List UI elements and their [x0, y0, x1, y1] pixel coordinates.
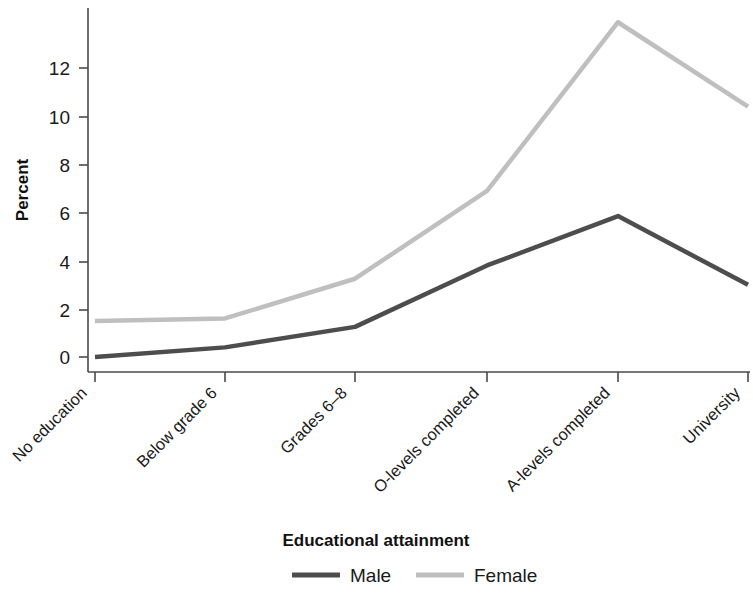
series-line-male	[95, 216, 748, 357]
x-tick-label-no-education: No education	[9, 383, 90, 464]
y-axis-title: Percent	[13, 158, 32, 221]
x-tick-label-grades-6-8: Grades 6–8	[276, 383, 350, 457]
x-tick-marks	[95, 372, 748, 382]
series-line-female	[95, 22, 748, 321]
y-tick-label-2: 2	[59, 300, 70, 321]
y-tick-label-4: 4	[59, 252, 70, 273]
x-tick-label-university: University	[679, 383, 743, 447]
legend-label-male: Male	[350, 565, 391, 586]
chart-figure: 12 10 8 6 4 2 0 Percent No education Bel…	[0, 0, 753, 593]
x-tick-label-a-levels-completed: A-levels completed	[502, 383, 613, 494]
line-chart-canvas: 12 10 8 6 4 2 0 Percent No education Bel…	[0, 0, 753, 593]
y-tick-label-6: 6	[59, 203, 70, 224]
y-tick-label-10: 10	[49, 107, 70, 128]
chart-legend: Male Female	[292, 565, 537, 586]
legend-label-female: Female	[474, 565, 537, 586]
y-tick-marks	[79, 68, 88, 357]
y-tick-label-12: 12	[49, 58, 70, 79]
x-tick-label-o-levels-completed: O-levels completed	[370, 383, 483, 496]
x-tick-label-below-grade-6: Below grade 6	[133, 383, 220, 470]
x-axis-title: Educational attainment	[282, 531, 469, 550]
y-tick-label-8: 8	[59, 155, 70, 176]
y-tick-label-0: 0	[59, 347, 70, 368]
